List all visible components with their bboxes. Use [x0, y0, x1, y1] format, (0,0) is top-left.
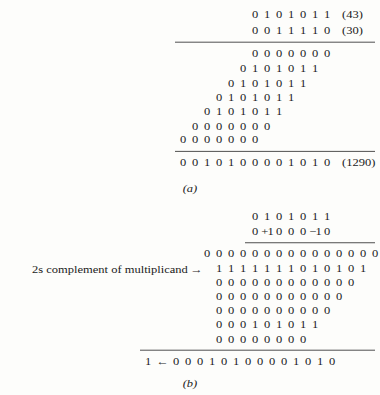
digit: 1 — [333, 263, 345, 274]
digit: 0 — [225, 291, 237, 302]
digit: 0 — [333, 277, 345, 288]
digit: 0 — [273, 157, 285, 168]
digit: 1 — [225, 263, 237, 274]
digit: 1 — [285, 92, 297, 103]
part-b-booth-digits: 0+1000−10 — [249, 225, 333, 237]
digit: 0 — [249, 226, 261, 237]
digit: 0 — [213, 134, 225, 145]
digit: 0 — [321, 226, 333, 237]
digit: 1 — [213, 107, 225, 118]
part-b-annotation: 2s complement of multiplicand→ — [32, 263, 204, 276]
digit: 0 — [273, 211, 285, 222]
digit: 1 — [285, 157, 297, 168]
digit: (30) — [342, 24, 363, 36]
digit: 0 — [225, 305, 237, 316]
digit: 0 — [213, 291, 225, 302]
digit: 1 — [273, 263, 285, 274]
part-b-bottom-rule — [140, 350, 375, 351]
digit: 0 — [345, 263, 357, 274]
digit: 1 — [237, 78, 249, 89]
digit: 1 — [237, 107, 249, 118]
digit: 0 — [177, 134, 189, 145]
part-b-result-carry: 1 — [142, 356, 154, 367]
digit: 0 — [225, 249, 237, 260]
digit: 0 — [261, 157, 273, 168]
digit: 1 — [201, 157, 213, 168]
digit: 1 — [309, 211, 321, 222]
digit: 0 — [225, 277, 237, 288]
part-a-caption: (a) — [0, 182, 380, 195]
digit: 0 — [261, 92, 273, 103]
part-a-multiplier-decimal: (30) — [342, 25, 363, 36]
digit: 1 — [297, 25, 309, 36]
digit: 0 — [273, 291, 285, 302]
digit: 0 — [249, 134, 261, 145]
part-b-top-rule — [245, 242, 375, 243]
digit: 1 — [261, 263, 273, 274]
digit: 0 — [297, 226, 309, 237]
digit: 0 — [266, 356, 278, 367]
digit: 0 — [297, 277, 309, 288]
digit: 1 — [285, 78, 297, 89]
digit: 0 — [201, 249, 213, 260]
part-a-partial-product-1: 0101011 — [237, 63, 321, 74]
digit: 1 — [261, 78, 273, 89]
digit: 0 — [297, 48, 309, 59]
digit: 0 — [225, 320, 237, 331]
digit: 0 — [254, 356, 266, 367]
left-arrow-icon: ← — [154, 356, 170, 367]
digit: 0 — [261, 320, 273, 331]
digit: 0 — [285, 48, 297, 59]
part-b-partial-product-1: 1111111010101 — [213, 263, 369, 274]
part-b-result-digits: 00010100001010 — [170, 355, 338, 367]
part-a-product-decimal: (1290) — [342, 157, 375, 168]
digit: 0 — [237, 334, 249, 345]
digit: 0 — [297, 249, 309, 260]
digit: −1 — [309, 226, 321, 237]
digit: 0 — [297, 263, 309, 274]
digit: 0 — [249, 334, 261, 345]
digit: 0 — [261, 63, 273, 74]
digit: 1 — [273, 92, 285, 103]
digit: 0 — [261, 334, 273, 345]
digit: 1 — [290, 356, 302, 367]
part-b-partial-product-0: 000000000000000 — [201, 249, 380, 260]
part-a-bottom-rule — [175, 151, 375, 152]
digit: 0 — [249, 157, 261, 168]
digit: 1 — [206, 356, 218, 367]
digit: 0 — [237, 305, 249, 316]
digit: 0 — [297, 9, 309, 20]
digit: 0 — [249, 25, 261, 36]
digit: 0 — [213, 157, 225, 168]
digit: 1 — [249, 92, 261, 103]
digit: 0 — [218, 356, 230, 367]
digit: 0 — [369, 249, 380, 260]
digit: 0 — [333, 291, 345, 302]
part-a-multiplicand-row: 0101011(43) — [249, 9, 363, 20]
digit: 0 — [201, 134, 213, 145]
digit: 1 — [273, 63, 285, 74]
digit: 0 — [321, 263, 333, 274]
digit: 0 — [321, 249, 333, 260]
digit: 0 — [189, 134, 201, 145]
digit: 1 — [285, 25, 297, 36]
part-a-partial-product-5: 0000000 — [189, 121, 273, 132]
part-b-partial-product-2: 000000000000 — [213, 277, 357, 288]
digit: 0 — [273, 334, 285, 345]
digit: 0 — [261, 25, 273, 36]
part-a-multiplicand-decimal: (43) — [342, 9, 363, 20]
digit: 0 — [249, 291, 261, 302]
part-a-multiplicand-digits: 0101011 — [249, 8, 333, 20]
digit: 0 — [249, 78, 261, 89]
digit: 0 — [345, 277, 357, 288]
digit: 1 — [273, 25, 285, 36]
digit: 1 — [309, 25, 321, 36]
digit: 0 — [189, 157, 201, 168]
digit: 0 — [249, 107, 261, 118]
digit: 1 — [285, 263, 297, 274]
digit: ← — [156, 356, 168, 367]
digit: 0 — [297, 305, 309, 316]
digit: 0 — [225, 107, 237, 118]
digit: 1 — [213, 263, 225, 274]
part-b-partial-product-4: 0000000000 — [213, 305, 333, 316]
